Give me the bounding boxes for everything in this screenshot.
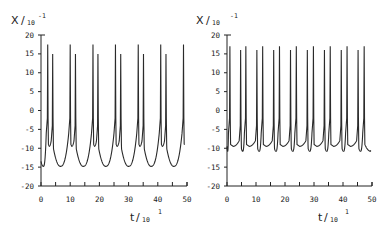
right-series-line <box>227 46 371 151</box>
left-axes <box>41 35 187 186</box>
left-xlabel: t <box>130 211 135 224</box>
right-ytick-label: 15 <box>211 49 220 58</box>
left-ytick-label: 10 <box>25 68 35 77</box>
right-xtick-label: 30 <box>309 195 319 204</box>
right-ytick-label: -20 <box>206 182 220 191</box>
left-ytick-label: -15 <box>20 163 34 172</box>
right-xtick-label: 20 <box>280 195 290 204</box>
right-xtick-label: 40 <box>338 195 348 204</box>
left-series-line <box>41 44 184 166</box>
right-ytick-label: 0 <box>215 106 220 115</box>
left-ytick-label: 0 <box>29 106 34 115</box>
left-ytick-label: 15 <box>25 49 34 58</box>
right-xlabel-scale: 10 <box>330 216 338 224</box>
left-xtick-label: 0 <box>39 195 44 204</box>
right-ylabel: X <box>196 14 204 27</box>
left-xtick-label: 10 <box>66 195 76 204</box>
left-xtick-label: 40 <box>153 195 163 204</box>
right-ytick-label: -15 <box>206 163 220 172</box>
right-yticks: -20-15-10-505101520 <box>206 31 227 191</box>
left-yticks: -20-15-10-505101520 <box>20 31 41 191</box>
right-ylabel-slash: / <box>206 14 210 27</box>
right-xlabel-slash: / <box>324 211 328 224</box>
left-xlabel-slash: / <box>136 211 140 224</box>
left-xtick-label: 20 <box>95 195 105 204</box>
right-xlabel-exp: 1 <box>345 208 349 216</box>
left-xlabel-scale: 10 <box>142 216 150 224</box>
left-ytick-label: 5 <box>29 87 34 96</box>
left-xtick-label: 30 <box>124 195 134 204</box>
left-ytick-label: -10 <box>20 144 34 153</box>
right-xtick-label: 50 <box>367 195 377 204</box>
right-axes <box>227 35 372 186</box>
left-ylabel-slash: / <box>21 14 25 27</box>
left-ytick-label: -20 <box>20 182 34 191</box>
right-xlabel: t <box>318 211 323 224</box>
left-ylabel-scale: 10 <box>27 19 35 27</box>
right-ytick-label: -10 <box>206 144 220 153</box>
right-plot: X / 10 -1 -20-15-10-505101520 0102030405… <box>196 12 377 224</box>
left-ytick-label: -5 <box>25 125 34 134</box>
left-ytick-label: 20 <box>25 31 35 40</box>
right-xtick-label: 10 <box>251 195 261 204</box>
right-ytick-label: 5 <box>215 87 220 96</box>
right-xtick-label: 0 <box>225 195 230 204</box>
left-plot: X / 10 -1 -20-15-10-505101520 0102030405… <box>11 12 192 224</box>
left-ylabel-exp: -1 <box>38 12 46 20</box>
right-ytick-label: 10 <box>211 68 221 77</box>
left-xtick-label: 50 <box>182 195 192 204</box>
right-xticks: 01020304050 <box>225 182 377 204</box>
left-xlabel-exp: 1 <box>158 208 162 216</box>
figure: X / 10 -1 -20-15-10-505101520 0102030405… <box>0 0 389 233</box>
right-ytick-label: 20 <box>211 31 221 40</box>
left-xticks: 01020304050 <box>39 182 192 204</box>
right-ylabel-exp: -1 <box>230 12 238 20</box>
left-ylabel: X <box>11 14 19 27</box>
right-ylabel-scale: 10 <box>212 19 220 27</box>
right-ytick-label: -5 <box>211 125 220 134</box>
